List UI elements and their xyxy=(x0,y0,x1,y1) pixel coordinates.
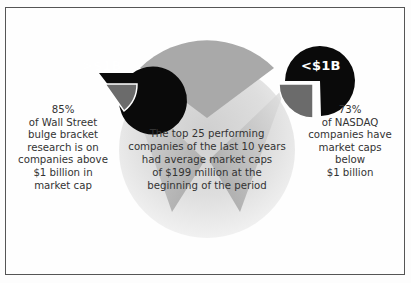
center-text-line: companies of the last 10 years xyxy=(117,140,297,153)
left-caption-line: companies above xyxy=(4,154,122,167)
left-caption-line: $1 billion in xyxy=(4,167,122,180)
right-caption-line: market caps xyxy=(290,142,410,155)
left-caption-line: bulge bracket xyxy=(4,129,122,142)
left-caption: 85% of Wall Street bulge bracket researc… xyxy=(4,104,122,192)
right-caption-line: companies have xyxy=(290,129,410,142)
right-caption: 73% of NASDAQ companies have market caps… xyxy=(290,104,410,180)
center-text: The top 25 performing companies of the l… xyxy=(117,127,297,192)
right-caption-line: below xyxy=(290,154,410,167)
right-caption-line: $1 billion xyxy=(290,167,410,180)
center-text-line: had average market caps xyxy=(117,153,297,166)
left-caption-line: 85% xyxy=(4,104,122,117)
left-caption-line: research is on xyxy=(4,142,122,155)
center-text-line: beginning of the period xyxy=(117,179,297,192)
center-text-line: The top 25 performing xyxy=(117,127,297,140)
left-caption-line: of Wall Street xyxy=(4,117,122,130)
left-caption-line: market cap xyxy=(4,180,122,193)
right-pie-label: <$1B xyxy=(301,58,341,73)
left-pie-label: >$1B xyxy=(82,58,122,73)
right-caption-line: of NASDAQ xyxy=(290,117,410,130)
right-caption-line: 73% xyxy=(290,104,410,117)
center-text-line: of $199 million at the xyxy=(117,166,297,179)
